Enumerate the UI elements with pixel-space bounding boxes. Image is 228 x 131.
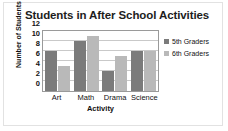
x-tick-label: Science — [130, 93, 159, 102]
legend-item[interactable]: 6th Graders — [164, 48, 209, 58]
y-axis-ticks: 024681012 — [26, 30, 42, 92]
legend-label: 6th Graders — [172, 50, 209, 57]
bar-group — [101, 31, 130, 91]
bar[interactable] — [45, 51, 57, 91]
bar[interactable] — [144, 51, 156, 91]
x-tick-label: Drama — [101, 93, 130, 102]
legend: 5th Graders6th Graders — [164, 36, 209, 60]
bar-group — [43, 31, 72, 91]
bar[interactable] — [102, 71, 114, 91]
y-tick-label: 10 — [32, 30, 40, 38]
x-axis-label: Activity — [42, 104, 159, 113]
legend-swatch-icon — [164, 51, 169, 56]
y-tick-label: 12 — [32, 20, 40, 28]
bar[interactable] — [131, 51, 143, 91]
x-tick-label: Art — [42, 93, 71, 102]
y-tick-label: 8 — [36, 40, 40, 48]
bar[interactable] — [58, 66, 70, 91]
y-tick-label: 2 — [36, 70, 40, 78]
bar[interactable] — [115, 56, 127, 91]
y-tick-label: 6 — [36, 50, 40, 58]
bar-group — [129, 31, 158, 91]
x-tick-label: Math — [71, 93, 100, 102]
y-tick-label: 0 — [36, 80, 40, 88]
bar[interactable] — [87, 36, 99, 91]
bar-group — [72, 31, 101, 91]
bars-layer — [43, 31, 158, 91]
legend-swatch-icon — [164, 39, 169, 44]
chart-card: Students in After School Activities Numb… — [3, 2, 223, 126]
legend-item[interactable]: 5th Graders — [164, 36, 209, 46]
chart-title: Students in After School Activities — [18, 9, 216, 21]
legend-label: 5th Graders — [172, 38, 209, 45]
x-axis-ticks: ArtMathDramaScience — [42, 93, 159, 104]
y-tick-label: 4 — [36, 60, 40, 68]
bar[interactable] — [74, 41, 86, 91]
y-axis-label: Number of Students — [15, 0, 22, 71]
